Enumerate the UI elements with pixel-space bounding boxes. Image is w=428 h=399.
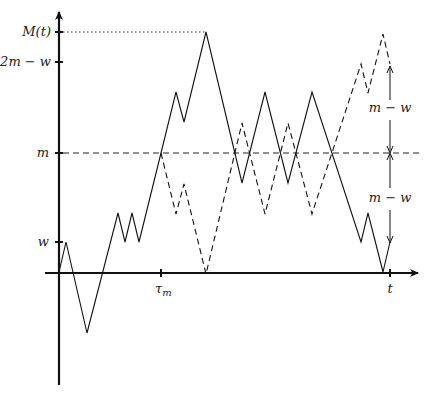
y-tick-label-m: m bbox=[37, 145, 49, 160]
reflected-path bbox=[161, 34, 390, 274]
y-tick-label-w: w bbox=[38, 234, 49, 249]
original-path bbox=[59, 32, 390, 333]
reflection-principle-diagram: m − w m − w M(t) 2m − w m w τm t bbox=[0, 0, 428, 399]
lower-m-minus-w-label: m − w bbox=[369, 190, 412, 205]
x-tick-label-tau-m: τm bbox=[155, 281, 172, 298]
y-tick-label-2m-minus-w: 2m − w bbox=[0, 54, 51, 69]
upper-m-minus-w-label: m − w bbox=[369, 100, 412, 115]
x-tick-label-t: t bbox=[387, 281, 393, 296]
y-tick-label-max: M(t) bbox=[21, 24, 51, 39]
